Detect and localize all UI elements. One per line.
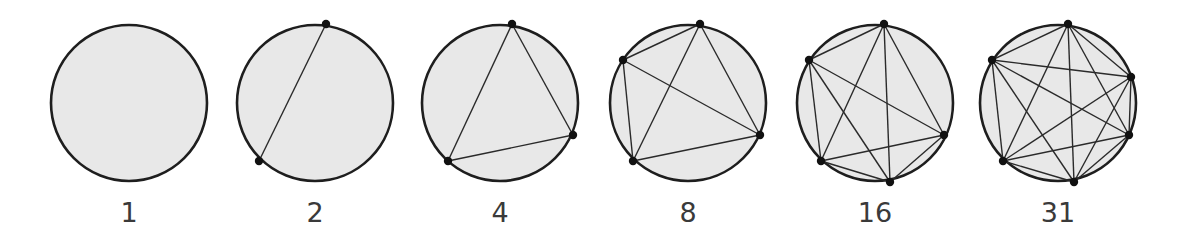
- circle-point: [629, 157, 637, 165]
- circle-point: [880, 20, 888, 28]
- circle-point: [1070, 178, 1078, 186]
- circle-panel-2: 2: [237, 20, 393, 228]
- region-count-label: 8: [679, 197, 696, 228]
- circle-point: [255, 157, 263, 165]
- circle-point: [619, 56, 627, 64]
- circle-point: [444, 157, 452, 165]
- circle-division-diagram: 12481631: [0, 0, 1186, 236]
- circle-point: [508, 20, 516, 28]
- circle-panel-16: 16: [797, 20, 953, 228]
- circle-point: [817, 157, 825, 165]
- circle-point: [805, 56, 813, 64]
- circle-point: [569, 131, 577, 139]
- circle-point: [886, 178, 894, 186]
- circle-panel-1: 1: [51, 25, 207, 228]
- circle-point: [999, 157, 1007, 165]
- circle-point: [940, 131, 948, 139]
- circle-point: [756, 131, 764, 139]
- circle-panel-4: 4: [422, 20, 578, 228]
- region-count-label: 2: [306, 197, 323, 228]
- circle-point: [988, 56, 996, 64]
- circle-point: [1064, 20, 1072, 28]
- region-count-label: 31: [1041, 197, 1075, 228]
- region-count-label: 4: [491, 197, 508, 228]
- region-count-label: 16: [858, 197, 892, 228]
- circle-point: [696, 20, 704, 28]
- circle-outline: [51, 25, 207, 181]
- region-count-label: 1: [120, 197, 137, 228]
- circle-point: [1125, 131, 1133, 139]
- circle-point: [322, 20, 330, 28]
- circle-panel-8: 8: [610, 20, 766, 228]
- circle-panel-31: 31: [980, 20, 1136, 228]
- circle-point: [1127, 73, 1135, 81]
